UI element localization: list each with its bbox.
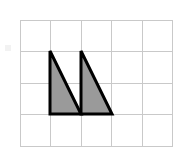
edge-artifact-layer	[5, 45, 11, 51]
figure-canvas	[0, 0, 178, 156]
edge-artifact	[5, 45, 11, 51]
geometry-figure	[0, 0, 178, 156]
